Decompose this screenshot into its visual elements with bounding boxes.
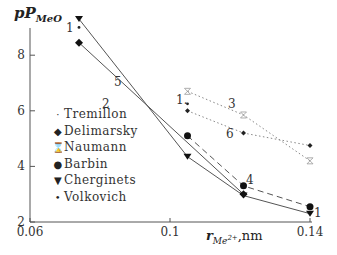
svg-text:3: 3 bbox=[228, 97, 236, 111]
legend-item-volkovich: •Volkovich bbox=[52, 189, 138, 206]
svg-text:0.1: 0.1 bbox=[160, 225, 179, 239]
svg-text:1: 1 bbox=[314, 206, 322, 220]
hourglass-marker-icon: ⌛ bbox=[52, 140, 64, 157]
svg-text:4: 4 bbox=[246, 173, 254, 187]
svg-text:5: 5 bbox=[114, 75, 122, 89]
circle-marker-icon: ● bbox=[52, 157, 64, 174]
chart-plot: 24680.060.10.14 1521.3641 bbox=[0, 0, 337, 255]
svg-text:1.: 1. bbox=[176, 93, 187, 107]
svg-text:6: 6 bbox=[17, 104, 25, 118]
dot-marker-icon: · bbox=[52, 107, 64, 124]
legend-item-cherginets: ▼Cherginets bbox=[52, 172, 138, 189]
triangle-down-marker-icon: ▼ bbox=[52, 173, 64, 190]
y-axis-label: pPMeO bbox=[14, 4, 62, 24]
legend: ·Tremillon ◆Delimarsky ⌛Naumann ●Barbin … bbox=[52, 106, 138, 205]
svg-text:6: 6 bbox=[226, 127, 234, 141]
legend-item-tremillon: ·Tremillon bbox=[52, 106, 138, 123]
svg-text:1: 1 bbox=[66, 21, 74, 35]
legend-item-barbin: ●Barbin bbox=[52, 156, 138, 173]
legend-item-naumann: ⌛Naumann bbox=[52, 139, 138, 156]
diamond-marker-icon: ◆ bbox=[52, 124, 64, 141]
svg-text:0.06: 0.06 bbox=[17, 225, 44, 239]
svg-text:8: 8 bbox=[17, 48, 25, 62]
svg-text:0.14: 0.14 bbox=[297, 225, 324, 239]
legend-item-delimarsky: ◆Delimarsky bbox=[52, 123, 138, 140]
svg-text:4: 4 bbox=[17, 159, 25, 173]
x-axis-label: rMe2+,nm bbox=[206, 228, 263, 246]
small-diamond-marker-icon: • bbox=[52, 190, 64, 207]
